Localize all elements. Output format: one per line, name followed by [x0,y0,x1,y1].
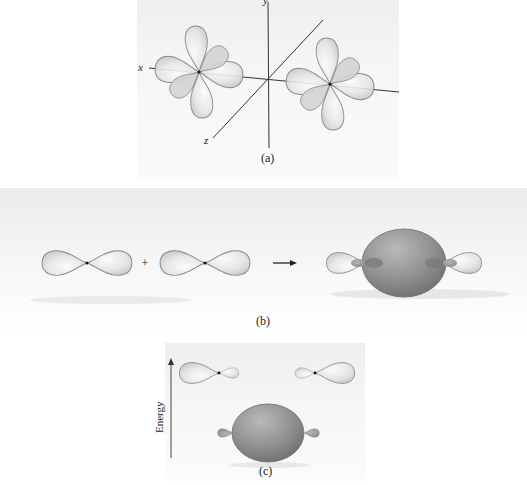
p-orbital-2 [160,251,250,276]
caption-a: (a) [261,151,274,166]
nucleus [204,262,207,265]
energy-axis-label: Energy [153,401,165,433]
bonding-lobe [232,404,304,462]
y-axis-line [268,2,269,148]
z-axis-label: z [204,134,208,146]
plus-sign: + [141,255,148,270]
sigma-bonding-orbital [218,404,320,462]
sigma-bonding-orbital [326,229,481,297]
nucleus [328,82,331,85]
energy-arrow [168,358,174,458]
panel-c-diagram [165,343,365,481]
panel-b-orbital-combination: + (b) [0,188,527,338]
atomic-p-orbital-left [179,363,238,384]
nucleus [314,372,317,375]
right-atom-p-orbitals [285,37,375,131]
panel-a-p-orbitals: x y z (a) [137,0,399,180]
caption-c: (c) [259,464,272,479]
nucleus [86,262,89,265]
reaction-arrow [273,260,297,266]
caption-b: (b) [256,314,270,329]
p-orbital-1 [42,251,132,276]
x-axis-label: x [138,61,143,73]
panel-c-energy-diagram: Energy (c) [165,343,365,481]
y-axis-label: y [263,0,268,6]
nucleus [218,372,221,375]
nucleus [197,70,200,73]
left-atom-p-orbitals [154,25,244,119]
atomic-p-orbital-right [295,363,354,384]
